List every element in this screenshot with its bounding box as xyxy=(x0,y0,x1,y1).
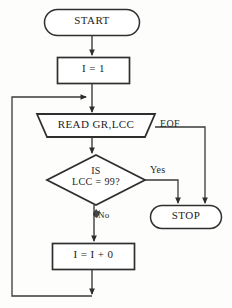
flowchart-graphics xyxy=(0,0,232,308)
increment-process-shape xyxy=(53,244,135,270)
edge-eof-to-stop xyxy=(155,127,205,203)
stop-terminal-shape xyxy=(151,206,222,229)
init-process-shape xyxy=(58,58,130,84)
decision-shape xyxy=(47,155,145,205)
start-terminal-shape xyxy=(45,10,140,36)
read-io-shape xyxy=(37,114,155,137)
edge-yes-to-stop xyxy=(145,180,178,203)
flowchart-canvas: START I = 1 READ GR,LCC IS LCC = 99? STO… xyxy=(0,0,232,308)
